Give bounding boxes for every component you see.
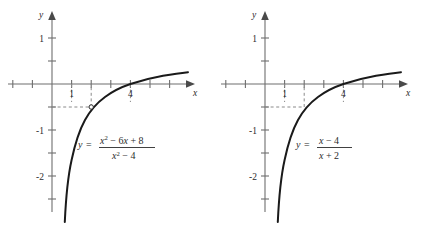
removable-discontinuity-hole bbox=[89, 105, 93, 109]
x-tick-label-4: 4 bbox=[341, 89, 346, 99]
y-axis-arrowhead bbox=[48, 11, 56, 20]
x-axis-label: x bbox=[192, 88, 198, 98]
equation-equals: = bbox=[86, 139, 92, 150]
y-tick-label-minus2: -2 bbox=[36, 172, 44, 182]
x-axis-label: x bbox=[405, 88, 411, 98]
chart-panel-left: y x 1 4 1 -1 -2 y = x2 − 6x + 8 x2 − 4 bbox=[0, 0, 212, 225]
plot-svg-left: y x 1 4 1 -1 -2 y = x2 − 6x + 8 x2 − 4 bbox=[0, 0, 212, 225]
equation-lhs: y bbox=[295, 139, 301, 150]
equation-equals: = bbox=[304, 139, 310, 150]
equation-denominator: x + 2 bbox=[318, 150, 339, 161]
x-tick-label-1: 1 bbox=[69, 89, 74, 99]
y-tick-label-minus1: -1 bbox=[36, 126, 44, 136]
equation-numerator: x − 4 bbox=[318, 135, 339, 146]
equation-label: y = x − 4 x + 2 bbox=[295, 135, 352, 162]
y-tick-label-1: 1 bbox=[39, 34, 44, 44]
x-tick-label-1: 1 bbox=[282, 89, 287, 99]
y-tick-label-minus2: -2 bbox=[249, 172, 257, 182]
x-tick-label-4: 4 bbox=[128, 89, 133, 99]
equation-lhs: y bbox=[77, 139, 83, 150]
y-tick-label-1: 1 bbox=[252, 34, 257, 44]
x-axis-arrowhead bbox=[399, 80, 408, 88]
equation-label: y = x2 − 6x + 8 x2 − 4 bbox=[77, 134, 155, 161]
y-axis-label: y bbox=[251, 10, 257, 20]
y-tick-label-minus1: -1 bbox=[249, 126, 257, 136]
y-axis-label: y bbox=[38, 10, 44, 20]
equation-denominator: x2 − 4 bbox=[111, 150, 135, 161]
chart-panel-right: y x 1 4 1 -1 -2 y = x − 4 x + 2 bbox=[213, 0, 425, 225]
plot-svg-right: y x 1 4 1 -1 -2 y = x − 4 x + 2 bbox=[213, 0, 425, 225]
equation-numerator: x2 − 6x + 8 bbox=[99, 134, 144, 145]
x-axis-arrowhead bbox=[186, 80, 195, 88]
y-axis-arrowhead bbox=[261, 11, 269, 20]
